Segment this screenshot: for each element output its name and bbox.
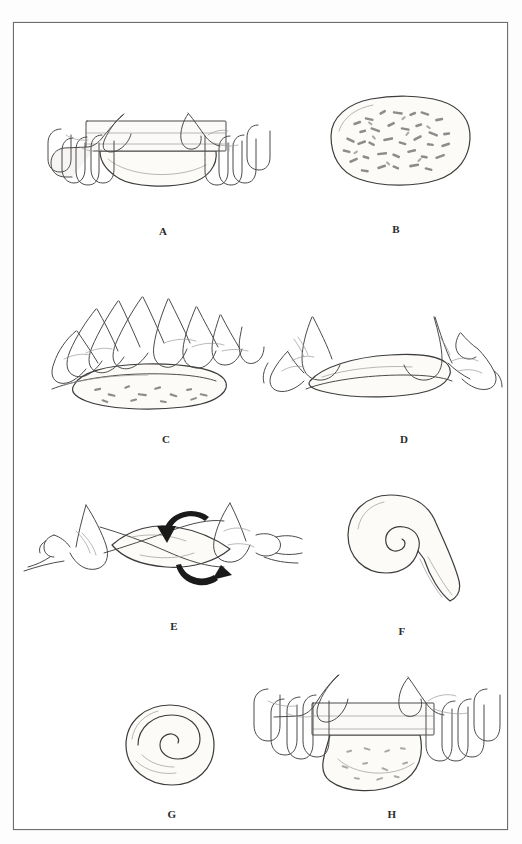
- panel-h-drawing: [242, 663, 507, 798]
- panel-a-caption: A: [153, 225, 173, 237]
- panel-f-caption: F: [392, 625, 412, 637]
- dough-log: [306, 354, 452, 396]
- panel-f: F: [332, 485, 492, 605]
- panel-g-caption: G: [162, 808, 182, 820]
- flattened-bun: [323, 735, 422, 791]
- panel-g-drawing: [112, 693, 232, 803]
- panel-b-drawing: [309, 81, 484, 201]
- figure-frame: A: [13, 22, 508, 830]
- panel-b: B: [309, 81, 484, 201]
- rolling-pin: [312, 703, 434, 735]
- scanned-page: A: [0, 0, 522, 844]
- panel-c: C: [44, 281, 274, 411]
- panel-d: D: [262, 311, 502, 416]
- left-hand: [24, 505, 108, 571]
- right-hand: [214, 503, 302, 563]
- panel-b-caption: B: [386, 223, 406, 235]
- panel-d-drawing: [262, 311, 502, 416]
- panel-e: E: [24, 483, 304, 598]
- right-hand: [153, 299, 264, 368]
- coiled-spiral: [348, 495, 460, 601]
- flattened-dough: [100, 151, 216, 186]
- panel-d-caption: D: [394, 433, 414, 445]
- panel-h: H: [242, 663, 507, 798]
- panel-e-drawing: [24, 483, 304, 598]
- panel-f-drawing: [332, 485, 492, 605]
- round-bun: [126, 705, 214, 785]
- rolling-dough-log: [52, 364, 226, 409]
- panel-e-caption: E: [164, 620, 184, 632]
- panel-a: A: [28, 73, 278, 203]
- panel-c-caption: C: [156, 433, 176, 445]
- panel-c-drawing: [44, 281, 274, 411]
- panel-g: G: [112, 693, 232, 803]
- panel-a-drawing: [28, 73, 278, 203]
- panel-h-caption: H: [382, 808, 402, 820]
